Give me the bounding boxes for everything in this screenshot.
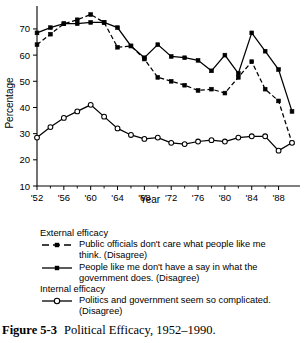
data-point xyxy=(75,22,79,26)
data-point xyxy=(129,133,134,138)
data-point xyxy=(236,135,241,140)
data-point xyxy=(196,58,200,62)
data-point xyxy=(209,138,214,143)
data-point xyxy=(35,31,39,35)
x-axis-label: Year xyxy=(140,194,161,205)
data-point xyxy=(210,69,214,73)
data-point xyxy=(236,72,240,76)
series-markers-0 xyxy=(35,13,294,145)
x-tick-label: '60 xyxy=(84,192,96,203)
y-tick-label: 20 xyxy=(19,154,30,165)
chart-legend: External efficacyPublic officials don't … xyxy=(0,228,304,318)
chart-axes: 10203040506070'52'56'60'64'68'72'76'80'8… xyxy=(19,6,300,203)
legend-entry[interactable]: Public officials don't care what people … xyxy=(40,239,304,261)
data-point xyxy=(115,126,120,131)
x-tick-label: '84 xyxy=(246,192,258,203)
y-tick-label: 30 xyxy=(19,128,30,139)
y-tick-label: 70 xyxy=(19,23,30,34)
legend-label-line1: Politics and government seem so complica… xyxy=(79,295,271,305)
chart-series xyxy=(35,13,295,153)
data-point xyxy=(210,87,214,91)
data-point xyxy=(196,139,201,144)
data-point xyxy=(48,125,53,130)
y-tick-label: 50 xyxy=(19,76,30,87)
figure-political-efficacy: 10203040506070'52'56'60'64'68'72'76'80'8… xyxy=(0,0,304,343)
data-point xyxy=(155,135,160,140)
series-markers-1 xyxy=(35,21,294,114)
legend-label-line2: government does. (Disagree) xyxy=(79,273,304,284)
legend-group-title: External efficacy xyxy=(40,228,304,239)
data-point xyxy=(263,134,268,139)
data-point xyxy=(277,68,281,72)
data-point xyxy=(116,45,120,49)
legend-entry[interactable]: People like me don't have a say in what … xyxy=(40,262,304,284)
data-point xyxy=(222,139,227,144)
data-point xyxy=(183,56,187,60)
y-tick-label: 60 xyxy=(19,50,30,61)
caption-text: Political Efficacy, 1952–1990. xyxy=(64,323,216,337)
data-point xyxy=(49,26,53,30)
x-tick-label: '56 xyxy=(58,192,70,203)
data-point xyxy=(89,21,93,25)
legend-label-line1: Public officials don't care what people … xyxy=(79,239,266,249)
x-tick-label: '76 xyxy=(192,192,204,203)
data-point xyxy=(276,148,281,153)
data-point xyxy=(35,43,39,47)
x-tick-label: '52 xyxy=(31,192,43,203)
data-point xyxy=(75,18,79,22)
line-chart-svg: 10203040506070'52'56'60'64'68'72'76'80'8… xyxy=(0,0,304,205)
x-tick-label: '80 xyxy=(219,192,231,203)
legend-swatch-solid-open-circle xyxy=(40,295,74,306)
data-point xyxy=(116,26,120,30)
data-point xyxy=(277,99,281,103)
data-point xyxy=(88,102,93,107)
data-point xyxy=(263,87,267,91)
data-point xyxy=(102,21,106,25)
x-tick-label: '72 xyxy=(165,192,177,203)
data-point xyxy=(169,140,174,145)
data-point xyxy=(250,31,254,35)
chart-plot-area: 10203040506070'52'56'60'64'68'72'76'80'8… xyxy=(0,0,304,205)
y-tick-label: 10 xyxy=(19,181,30,192)
data-point xyxy=(249,134,254,139)
data-point xyxy=(196,89,200,93)
caption-label: Figure 5-3 xyxy=(2,323,57,337)
axis-lines xyxy=(37,6,300,186)
data-point xyxy=(290,140,295,145)
y-tick-label: 40 xyxy=(19,102,30,113)
legend-swatch xyxy=(40,295,74,306)
data-point xyxy=(129,44,133,48)
data-point xyxy=(62,22,66,26)
data-point xyxy=(183,83,187,87)
legend-swatch xyxy=(40,262,74,273)
data-point xyxy=(49,32,53,36)
legend-swatch xyxy=(40,239,74,250)
data-point xyxy=(35,135,40,140)
data-point xyxy=(290,110,294,114)
legend-entry[interactable]: Politics and government seem so complica… xyxy=(40,295,304,317)
data-point xyxy=(89,13,93,17)
x-tick-label: '64 xyxy=(111,192,123,203)
data-point xyxy=(223,53,227,57)
y-axis-label: Percentage xyxy=(4,77,15,129)
legend-label-line2: (Disagree) xyxy=(79,306,304,317)
data-point xyxy=(182,142,187,147)
legend-swatch-dashed-filled-square xyxy=(40,239,74,250)
data-point xyxy=(156,43,160,47)
data-point xyxy=(61,116,66,121)
x-tick-label: '88 xyxy=(272,192,284,203)
data-point xyxy=(263,49,267,53)
data-point xyxy=(102,114,107,119)
legend-swatch-solid-filled-square xyxy=(40,262,74,273)
legend-label: People like me don't have a say in what … xyxy=(79,262,304,284)
figure-caption: Figure 5-3Political Efficacy, 1952–1990. xyxy=(2,323,302,338)
data-point xyxy=(236,75,240,79)
data-point xyxy=(169,55,173,59)
legend-label: Politics and government seem so complica… xyxy=(79,295,304,317)
data-point xyxy=(142,56,146,60)
legend-label: Public officials don't care what people … xyxy=(79,239,304,261)
legend-label-line1: People like me don't have a say in what … xyxy=(79,262,258,272)
data-point xyxy=(142,136,147,141)
data-point xyxy=(75,109,80,114)
data-point xyxy=(169,79,173,83)
